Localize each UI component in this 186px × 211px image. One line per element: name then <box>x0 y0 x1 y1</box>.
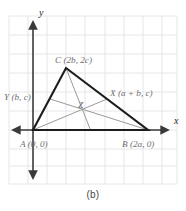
y-axis-label: y <box>38 7 44 18</box>
geometry-diagram: y x C (2b, 2c) X (a + b, c) Y (b, c) Z A… <box>0 0 186 211</box>
point-label-y: Y (b, c) <box>4 92 31 102</box>
point-label-b: B (2a, 0) <box>122 139 154 149</box>
geometry-figure: y x C (2b, 2c) X (a + b, c) Y (b, c) Z A… <box>0 0 186 211</box>
x-axis-label: x <box>173 115 179 126</box>
point-label-x: X (a + b, c) <box>109 88 153 98</box>
figure-caption: (b) <box>0 189 186 200</box>
point-label-c: C (2b, 2c) <box>55 55 92 65</box>
grid-lines <box>9 16 177 184</box>
point-label-z: Z <box>78 100 84 110</box>
point-label-a: A (0, 0) <box>19 139 48 149</box>
